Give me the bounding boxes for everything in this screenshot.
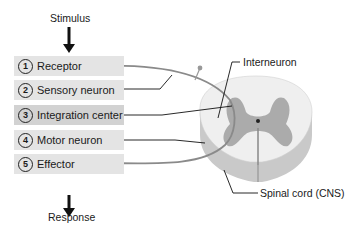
step-number: 4	[18, 133, 33, 148]
step-integration-center: 3 Integration center	[14, 105, 124, 125]
step-number: 2	[18, 83, 33, 98]
step-receptor: 1 Receptor	[14, 56, 124, 76]
stimulus-arrow-icon	[63, 27, 75, 53]
step-number: 3	[18, 108, 33, 123]
step-number: 5	[18, 157, 33, 172]
step-number: 1	[18, 59, 33, 74]
spinal-cord-cross-section-icon	[200, 76, 312, 182]
step-motor-neuron: 4 Motor neuron	[14, 130, 124, 150]
step-effector: 5 Effector	[14, 154, 124, 174]
step-label: Receptor	[37, 60, 82, 72]
step-label: Effector	[37, 158, 75, 170]
stimulus-label: Stimulus	[50, 12, 90, 24]
step-sensory-neuron: 2 Sensory neuron	[14, 80, 124, 100]
step-label: Motor neuron	[37, 134, 102, 146]
response-label: Response	[48, 211, 95, 223]
step-label: Integration center	[37, 109, 123, 121]
spinal-cord-label: Spinal cord (CNS)	[260, 187, 345, 199]
step-label: Sensory neuron	[37, 84, 115, 96]
interneuron-label: Interneuron	[243, 56, 297, 68]
